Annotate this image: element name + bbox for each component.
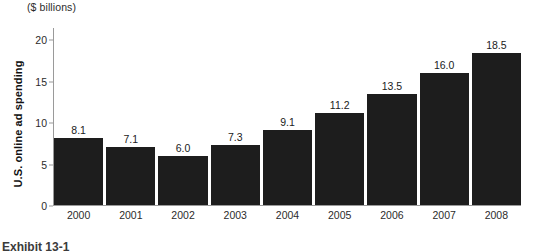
- y-axis-tick-label: 0: [41, 200, 47, 212]
- x-axis-tick-label: 2001: [106, 209, 155, 221]
- x-axis-tick-label: 2005: [315, 209, 364, 221]
- x-axis-tick-label: 2008: [472, 209, 521, 221]
- bar-item[interactable]: 8.1: [54, 28, 103, 205]
- bar-item[interactable]: 7.3: [211, 28, 260, 205]
- y-axis-title: U.S. online ad spending: [12, 44, 24, 204]
- x-axis-tick-label: 2003: [211, 209, 260, 221]
- bar-rect[interactable]: [106, 147, 155, 205]
- x-axis-tick-group: 200020012002200320042005200620072008: [54, 209, 521, 221]
- chart-figure: ($ billions) U.S. online ad spending 051…: [0, 0, 537, 252]
- bar-item[interactable]: 13.5: [367, 28, 416, 205]
- x-axis-tick-label: 2000: [54, 209, 103, 221]
- bar-item[interactable]: 6.0: [158, 28, 207, 205]
- y-axis-tick-mark: [49, 40, 53, 41]
- x-axis-tick-label: 2007: [420, 209, 469, 221]
- bar-item[interactable]: 16.0: [420, 28, 469, 205]
- y-axis-tick-label: 20: [35, 34, 47, 46]
- y-axis-tick-mark: [49, 164, 53, 165]
- y-axis-tick-label: 15: [35, 76, 47, 88]
- x-axis-line: [53, 205, 521, 206]
- bar-rect[interactable]: [263, 130, 312, 205]
- bar-item[interactable]: 11.2: [315, 28, 364, 205]
- bar-value-label: 8.1: [54, 124, 103, 136]
- bar-rect[interactable]: [420, 73, 469, 205]
- bar-rect[interactable]: [472, 53, 521, 205]
- bar-item[interactable]: 9.1: [263, 28, 312, 205]
- y-axis-tick-mark: [49, 123, 53, 124]
- bar-item[interactable]: 7.1: [106, 28, 155, 205]
- bar-rect[interactable]: [158, 156, 207, 205]
- bar-rect[interactable]: [315, 113, 364, 205]
- y-axis-tick-mark: [49, 81, 53, 82]
- y-axis-tick-mark: [49, 206, 53, 207]
- bar-value-label: 11.2: [315, 99, 364, 111]
- bar-value-label: 7.1: [106, 133, 155, 145]
- x-axis-tick-label: 2004: [263, 209, 312, 221]
- bar-value-label: 6.0: [158, 142, 207, 154]
- bar-rect[interactable]: [54, 138, 103, 205]
- bar-rect[interactable]: [367, 94, 416, 205]
- bar-value-label: 16.0: [420, 59, 469, 71]
- x-axis-tick-label: 2006: [367, 209, 416, 221]
- y-axis-unit-header: ($ billions): [27, 1, 76, 13]
- bar-rect[interactable]: [211, 145, 260, 205]
- figure-caption: Exhibit 13-1: [2, 240, 69, 252]
- bar-value-label: 18.5: [472, 39, 521, 51]
- bar-value-label: 7.3: [211, 131, 260, 143]
- plot-area: 05101520 8.17.16.07.39.111.213.516.018.5: [53, 28, 521, 206]
- bar-item[interactable]: 18.5: [472, 28, 521, 205]
- bar-series: 8.17.16.07.39.111.213.516.018.5: [54, 28, 521, 205]
- bar-value-label: 9.1: [263, 116, 312, 128]
- bar-value-label: 13.5: [367, 80, 416, 92]
- y-axis-tick-label: 10: [35, 117, 47, 129]
- y-axis-tick-label: 5: [41, 159, 47, 171]
- x-axis-tick-label: 2002: [158, 209, 207, 221]
